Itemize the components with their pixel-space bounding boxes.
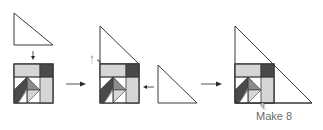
caption-make-8: Make 8 <box>256 110 292 122</box>
quilt-block-3 <box>235 64 274 103</box>
quilt-block-1 <box>14 64 53 103</box>
triangle-piece-2 <box>158 65 197 103</box>
quilt-block-2 <box>100 64 139 103</box>
up-arrow-icon <box>91 55 94 64</box>
triangle-piece-1 <box>14 13 53 45</box>
down-arrow-icon <box>31 51 35 60</box>
right-arrow-icon <box>201 82 222 87</box>
small-arrow-icon <box>261 103 267 109</box>
triangle-piece-top <box>100 26 139 64</box>
right-arrow-icon <box>66 82 86 87</box>
left-arrow-icon <box>143 85 154 89</box>
